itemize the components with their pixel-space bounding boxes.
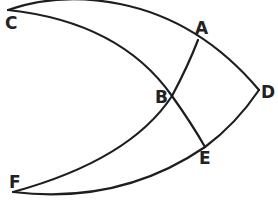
arc-F-B-A [13, 40, 198, 192]
arc-C-A-D [8, 0, 259, 90]
geometry-diagram: A B C D E F [0, 0, 278, 207]
point-label-c: C [5, 13, 17, 33]
point-label-d: D [261, 82, 275, 102]
arc-C-B-E [8, 10, 205, 147]
arc-F-E-D [13, 90, 259, 194]
point-label-a: A [195, 18, 209, 38]
point-label-e: E [199, 148, 211, 168]
point-label-f: F [9, 172, 21, 192]
point-label-b: B [155, 87, 168, 107]
diagram-svg: A B C D E F [0, 0, 278, 207]
